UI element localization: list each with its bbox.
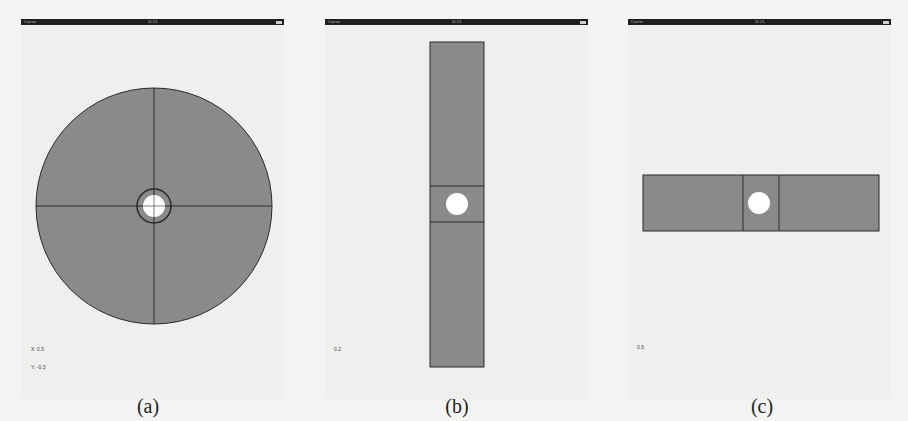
phone-screen-a: Carrier 11:21 X: 0.5 Y: -0.3 bbox=[21, 19, 284, 399]
phone-screen-c: Carrier 11:21 0.5 bbox=[628, 19, 891, 399]
slider-knob bbox=[748, 192, 770, 214]
y-readout: Y: -0.3 bbox=[31, 364, 45, 370]
value-readout: 0.2 bbox=[334, 346, 341, 352]
slider-knob bbox=[446, 193, 468, 215]
x-readout: X: 0.5 bbox=[31, 346, 44, 352]
vertical-slider[interactable] bbox=[325, 19, 588, 399]
caption-c: (c) bbox=[742, 395, 782, 418]
value-readout: 0.5 bbox=[637, 344, 644, 350]
joystick-pad[interactable] bbox=[21, 19, 284, 399]
caption-b: (b) bbox=[437, 395, 477, 418]
caption-a: (a) bbox=[128, 395, 168, 418]
panel-b: Carrier 11:21 0.2 bbox=[325, 19, 588, 399]
horizontal-slider[interactable] bbox=[628, 19, 891, 399]
panel-a: Carrier 11:21 X: 0.5 Y: -0.3 bbox=[21, 19, 284, 399]
panel-c: Carrier 11:21 0.5 bbox=[628, 19, 891, 399]
phone-screen-b: Carrier 11:21 0.2 bbox=[325, 19, 588, 399]
